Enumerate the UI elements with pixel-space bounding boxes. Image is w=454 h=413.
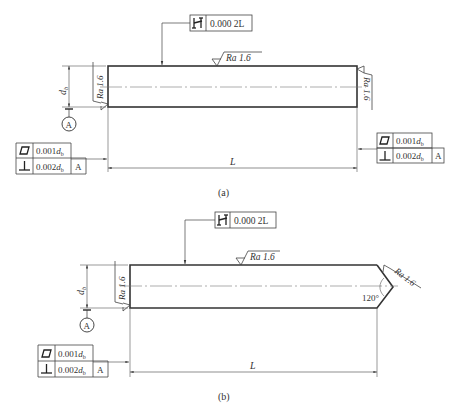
- control-frame-right-a: 0.001db 0.002db A: [377, 133, 444, 163]
- roughness-top-a: Ra 1.6: [212, 52, 262, 66]
- flatness-icon: [42, 350, 51, 357]
- control-frame-left-b: 0.001db 0.002db A: [38, 345, 108, 377]
- technical-drawing: 0.000 2L Ra 1.6 Ra 1.6 Ra 1.6 db: [0, 0, 454, 413]
- tip-angle-label: 120°: [362, 293, 380, 303]
- panel-b-caption: (b): [218, 391, 230, 402]
- datum-a-label: A: [66, 120, 73, 130]
- panel-a: 0.000 2L Ra 1.6 Ra 1.6 Ra 1.6 db: [16, 15, 444, 174]
- straightness-icon: [192, 18, 203, 28]
- svg-text:A: A: [97, 365, 104, 375]
- panel-a-caption: (a): [218, 187, 229, 198]
- svg-text:0.002db: 0.002db: [36, 162, 64, 173]
- angle-arc: [380, 278, 384, 296]
- control-frame-left-a: 0.001db 0.002db A: [16, 143, 86, 174]
- roughness-text: Ra 1.6: [117, 276, 127, 301]
- svg-text:0.001db: 0.001db: [396, 136, 424, 147]
- roughness-text: Ra 1.6: [225, 53, 251, 63]
- flatness-icon: [380, 137, 389, 144]
- leader-straightness-a: [162, 23, 190, 65]
- straightness-icon: [217, 215, 228, 225]
- svg-text:0.002db: 0.002db: [58, 365, 86, 376]
- svg-text:A: A: [435, 151, 442, 161]
- roughness-tip-b: Ra 1.6: [383, 265, 421, 288]
- roughness-top-b: Ra 1.6: [236, 251, 280, 265]
- roughness-text: Ra 1.6: [95, 75, 105, 100]
- panel-b: 0.000 2L Ra 1.6 Ra 1.6 Ra 1.6 120° db: [38, 212, 421, 377]
- roughness-text: Ra 1.6: [362, 76, 372, 101]
- flatness-icon: [20, 147, 29, 154]
- roughness-right-a: Ra 1.6: [357, 66, 372, 110]
- leader-straightness-b: [185, 220, 215, 264]
- part-body-a: [108, 66, 357, 107]
- roughness-text: Ra 1.6: [249, 252, 275, 262]
- straightness-frame-b: 0.000 2L: [215, 212, 276, 228]
- length-label-a: L: [229, 156, 236, 167]
- perpendicularity-icon: [41, 364, 52, 373]
- straightness-frame-a: 0.000 2L: [190, 15, 252, 31]
- roughness-text: Ra 1.6: [392, 265, 418, 288]
- drawing-canvas: 0.000 2L Ra 1.6 Ra 1.6 Ra 1.6 db: [0, 0, 454, 413]
- svg-text:0.001db: 0.001db: [58, 349, 86, 360]
- svg-text:0.002db: 0.002db: [396, 151, 424, 162]
- length-label-b: L: [249, 360, 256, 371]
- straightness-value-b: 0.000 2L: [234, 216, 269, 226]
- perpendicularity-icon: [380, 151, 391, 160]
- datum-a-label: A: [84, 321, 91, 331]
- svg-text:A: A: [75, 162, 82, 172]
- roughness-left-a: Ra 1.6: [93, 62, 108, 110]
- svg-text:0.001db: 0.001db: [36, 146, 64, 157]
- straightness-value-a: 0.000 2L: [210, 19, 245, 29]
- diameter-label-b: db: [75, 286, 87, 295]
- diameter-label-a: db: [57, 86, 69, 95]
- perpendicularity-icon: [19, 161, 30, 170]
- part-body-b: [130, 265, 393, 308]
